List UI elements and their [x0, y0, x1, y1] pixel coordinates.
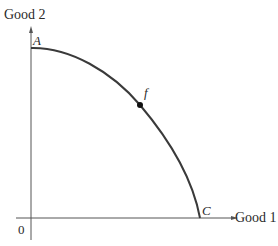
point-f-marker — [137, 102, 143, 108]
point-f-label: f — [144, 85, 150, 100]
point-a-label: A — [32, 33, 41, 48]
y-axis-label: Good 2 — [4, 7, 46, 22]
x-axis-label: Good 1 — [235, 210, 277, 225]
y-axis-arrow-icon — [29, 26, 33, 33]
frontier-curve — [31, 48, 200, 218]
origin-label: 0 — [18, 222, 25, 237]
y-axis — [29, 26, 33, 240]
point-c-label: C — [202, 203, 211, 218]
ppf-chart: Good 2 Good 1 0 A f C — [0, 0, 278, 246]
